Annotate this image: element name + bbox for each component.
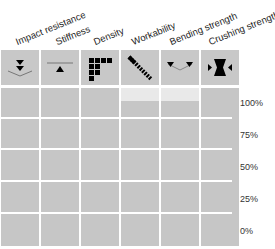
bar-workability (121, 88, 159, 246)
ytick-50: 50% (240, 162, 258, 172)
bar-density (81, 88, 119, 246)
bar-bending-strength (161, 88, 199, 246)
impact-resistance-icon (1, 50, 39, 85)
crushing-strength-icon (201, 50, 239, 85)
ytick-75: 75% (240, 130, 258, 140)
bending-strength-icon (161, 50, 199, 85)
ytick-100: 100% (240, 98, 263, 108)
bar-crushing-strength (201, 88, 239, 246)
gridline (0, 148, 232, 150)
workability-icon (121, 50, 159, 85)
gridline (0, 212, 232, 214)
bar-impact-resistance (1, 88, 39, 246)
ytick-25: 25% (240, 194, 258, 204)
density-icon (81, 50, 119, 85)
stiffness-icon (41, 50, 79, 85)
bar-stiffness (41, 88, 79, 246)
ytick-0: 0% (240, 226, 253, 236)
gridline (0, 180, 232, 182)
gridline (0, 117, 232, 119)
header-density: Density (92, 25, 126, 47)
